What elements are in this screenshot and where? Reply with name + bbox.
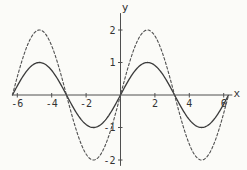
- sine-plot-figure: -6-4-2246-2-112 x y: [0, 0, 247, 170]
- plot-background: [0, 0, 247, 170]
- x-tick-label: -2: [80, 98, 92, 109]
- x-tick-label: -6: [11, 98, 23, 109]
- y-tick-label: -1: [103, 122, 115, 133]
- x-axis-label: x: [234, 87, 241, 100]
- x-tick-label: 4: [186, 98, 192, 109]
- sine-plot-svg: -6-4-2246-2-112 x y: [0, 0, 247, 170]
- x-tick-label: 2: [152, 98, 158, 109]
- y-axis-label: y: [122, 1, 129, 14]
- y-tick-label: 2: [109, 25, 115, 36]
- y-tick-label: -2: [103, 155, 115, 166]
- x-tick-label: -4: [46, 98, 58, 109]
- y-tick-label: 1: [109, 57, 115, 68]
